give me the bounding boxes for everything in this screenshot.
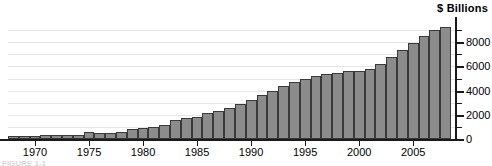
x-axis-tick-label: 2005 bbox=[401, 146, 425, 158]
bar bbox=[267, 91, 278, 139]
y-axis-tick-label: 4000 bbox=[466, 85, 490, 97]
bar bbox=[332, 73, 343, 139]
bar bbox=[224, 108, 235, 139]
chart-axis-title: $ Billions bbox=[437, 2, 488, 14]
bar bbox=[170, 120, 181, 139]
bar bbox=[419, 36, 430, 139]
x-axis-tick-label: 1970 bbox=[23, 146, 47, 158]
bar bbox=[127, 129, 138, 139]
bar bbox=[386, 57, 397, 139]
x-axis-tick-label: 1995 bbox=[293, 146, 317, 158]
bar bbox=[159, 125, 170, 139]
y-axis-tick bbox=[457, 66, 464, 68]
bar bbox=[213, 111, 224, 139]
bar bbox=[408, 43, 419, 139]
plot-area bbox=[0, 18, 455, 139]
y-axis-tick bbox=[457, 91, 464, 93]
y-axis-minor-tick bbox=[457, 79, 462, 80]
bar bbox=[192, 117, 203, 139]
bar bbox=[202, 113, 213, 139]
bar bbox=[429, 30, 440, 139]
bar bbox=[311, 76, 322, 139]
bar bbox=[343, 71, 354, 139]
figure-caption: FIGURE 1-1 bbox=[2, 159, 46, 166]
y-axis-minor-tick bbox=[457, 127, 462, 128]
bar bbox=[181, 118, 192, 139]
bar-chart: $ Billions 02000400060008000 19701975198… bbox=[0, 0, 492, 166]
bar bbox=[257, 95, 268, 139]
y-axis-tick-label: 8000 bbox=[466, 36, 490, 48]
bar-series bbox=[0, 18, 455, 139]
y-axis-tick bbox=[457, 139, 464, 141]
x-axis-line bbox=[0, 139, 457, 141]
x-axis-tick-label: 2000 bbox=[347, 146, 371, 158]
x-axis-tick-label: 1985 bbox=[185, 146, 209, 158]
bar bbox=[138, 128, 149, 139]
bar bbox=[321, 74, 332, 139]
bar bbox=[116, 132, 127, 139]
bar bbox=[235, 104, 246, 139]
x-axis-tick-label: 1980 bbox=[131, 146, 155, 158]
y-axis-minor-tick bbox=[457, 103, 462, 104]
y-axis-tick-label: 6000 bbox=[466, 60, 490, 72]
bar bbox=[148, 127, 159, 139]
y-axis-minor-tick bbox=[457, 30, 462, 31]
y-axis-tick-label: 2000 bbox=[466, 109, 490, 121]
y-axis-minor-tick bbox=[457, 54, 462, 55]
bar bbox=[440, 27, 451, 139]
y-axis-tick-label: 0 bbox=[466, 133, 472, 145]
bar bbox=[375, 64, 386, 139]
bar bbox=[397, 50, 408, 139]
x-axis-tick-label: 1975 bbox=[77, 146, 101, 158]
bar bbox=[246, 100, 257, 139]
bar bbox=[300, 79, 311, 139]
y-axis-tick bbox=[457, 115, 464, 117]
y-axis-tick bbox=[457, 42, 464, 44]
bar bbox=[289, 82, 300, 139]
x-axis-tick-label: 1990 bbox=[239, 146, 263, 158]
bar bbox=[354, 71, 365, 139]
bar bbox=[278, 86, 289, 139]
bar bbox=[365, 69, 376, 139]
